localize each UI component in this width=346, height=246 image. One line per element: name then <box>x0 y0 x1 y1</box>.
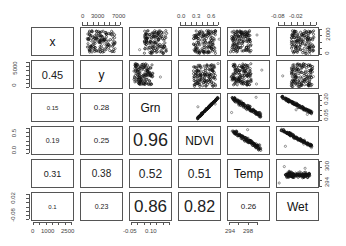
axis-tick <box>319 54 322 55</box>
axis-line <box>131 222 169 223</box>
axis-line <box>29 128 30 153</box>
tick-label-top: 3000 <box>91 13 104 19</box>
correlation-cell: 0.52 <box>129 159 172 188</box>
tick-label-bottom: 298 <box>243 228 253 234</box>
tick-label-left: -0.08 <box>10 208 16 222</box>
scatter-plot-grn-vs-wet <box>276 93 319 122</box>
tick-label-top: -0.08 <box>271 13 285 19</box>
scatter-plot-ndvi-vs-wet <box>276 126 319 155</box>
tick-label-top: -0.02 <box>289 13 303 19</box>
tick-label-right: 0.20 <box>323 93 329 105</box>
tick-label-bottom: 294 <box>225 228 235 234</box>
tick-label-left: 5000 <box>12 61 18 74</box>
correlation-cell: 0.19 <box>31 126 74 155</box>
scatter-points <box>228 61 269 88</box>
axis-tick <box>71 222 72 225</box>
scatter-plot-y-vs-ndvi <box>178 60 221 89</box>
tick-label-bottom: -0.05 <box>123 228 137 234</box>
tick-label-left: 0.02 <box>10 192 16 204</box>
scatter-points <box>277 28 318 55</box>
correlation-cell: 0.25 <box>80 126 123 155</box>
variable-label-x: x <box>31 27 74 56</box>
axis-tick <box>316 22 317 25</box>
axis-tick <box>169 222 170 225</box>
tick-label-bottom: 2500 <box>61 228 74 234</box>
scatter-points <box>130 28 171 55</box>
axis-line <box>29 62 30 87</box>
scatter-points <box>179 94 220 121</box>
axis-line <box>180 25 218 26</box>
axis-line <box>229 222 257 223</box>
scatter-plot-x-vs-temp <box>227 27 270 56</box>
scatter-plot-y-vs-temp <box>227 60 270 89</box>
scatter-points <box>277 94 318 121</box>
scatter-points <box>228 94 269 121</box>
scatter-plot-x-vs-y <box>80 27 123 56</box>
variable-label-temp: Temp <box>227 159 270 188</box>
correlation-cell: 0.82 <box>178 192 221 221</box>
axis-tick <box>26 87 29 88</box>
tick-label-left: 0.0 <box>11 146 17 154</box>
correlation-cell: 0.15 <box>31 93 74 122</box>
tick-label-right: 294 <box>324 177 330 187</box>
tick-label-right: 300 <box>324 161 330 171</box>
scatter-points <box>228 127 269 154</box>
correlation-cell: 0.1 <box>31 192 74 221</box>
axis-line <box>29 194 30 219</box>
correlation-cell: 0.96 <box>129 126 172 155</box>
scatter-plot-x-vs-ndvi <box>178 27 221 56</box>
tick-label-bottom: 0.10 <box>145 228 157 234</box>
correlation-cell: 0.86 <box>129 192 172 221</box>
scatter-plot-ndvi-vs-temp <box>227 126 270 155</box>
axis-tick <box>120 22 121 25</box>
tick-label-top: 0 <box>81 13 84 19</box>
tick-label-right: 0.05 <box>323 109 329 121</box>
correlation-cell: 0.51 <box>178 159 221 188</box>
axis-line <box>319 95 320 120</box>
tick-label-bottom: 1000 <box>41 228 54 234</box>
scatter-points <box>277 160 318 187</box>
variable-label-y: y <box>80 60 123 89</box>
scatter-plot-x-vs-wet <box>276 27 319 56</box>
axis-tick <box>257 222 258 225</box>
scatter-plot-y-vs-grn <box>129 60 172 89</box>
axis-tick <box>26 219 29 220</box>
variable-label-wet: Wet <box>276 192 319 221</box>
variable-label-ndvi: NDVI <box>178 126 221 155</box>
scatter-points <box>179 28 220 55</box>
tick-label-top: 0.0 <box>177 13 185 19</box>
axis-tick <box>218 22 219 25</box>
scatter-plot-y-vs-wet <box>276 60 319 89</box>
variable-label-grn: Grn <box>129 93 172 122</box>
scatter-points <box>277 61 318 88</box>
scatter-points <box>179 61 220 88</box>
tick-label-right: 0 <box>324 51 330 54</box>
correlation-cell: 0.23 <box>80 192 123 221</box>
scatter-points <box>277 127 318 154</box>
correlation-cell: 0.45 <box>31 60 74 89</box>
scatter-points <box>228 28 269 55</box>
scatter-points <box>81 28 122 55</box>
tick-label-right: 2000 <box>325 27 331 40</box>
axis-tick <box>319 186 322 187</box>
axis-line <box>278 25 316 26</box>
axis-line <box>319 161 320 186</box>
scatter-points <box>130 61 171 88</box>
tick-label-left: 0.5 <box>11 129 17 137</box>
correlation-cell: 0.26 <box>227 192 270 221</box>
correlation-cell: 0.38 <box>80 159 123 188</box>
axis-line <box>319 29 320 54</box>
axis-line <box>82 25 120 26</box>
scatter-plot-x-vs-grn <box>129 27 172 56</box>
tick-label-top: 0.3 <box>192 13 200 19</box>
scatter-plot-temp-vs-wet <box>276 159 319 188</box>
axis-line <box>33 222 71 223</box>
scatter-plot-grn-vs-ndvi <box>178 93 221 122</box>
correlation-cell: 0.31 <box>31 159 74 188</box>
tick-label-top: 0.6 <box>207 13 215 19</box>
scatter-plot-grn-vs-temp <box>227 93 270 122</box>
axis-tick <box>319 120 322 121</box>
correlation-cell: 0.28 <box>80 93 123 122</box>
tick-label-top: 7000 <box>112 13 125 19</box>
tick-label-bottom: 0 <box>31 228 34 234</box>
